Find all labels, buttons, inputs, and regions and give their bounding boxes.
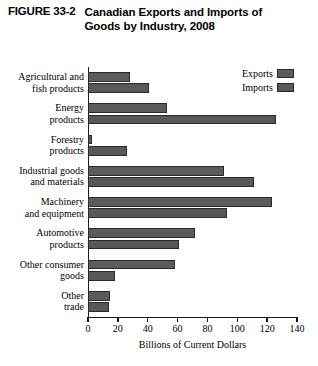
x-tick-label-120: 120: [260, 323, 275, 335]
chart-legend: ExportsImports: [232, 68, 294, 96]
bar-imports-2: [88, 146, 127, 156]
bar-exports-6: [88, 260, 175, 270]
x-axis-ticks: [88, 317, 297, 322]
category-label-2: Forestry products: [0, 134, 84, 157]
x-tick-140: [296, 317, 297, 322]
x-tick-label-80: 80: [202, 323, 212, 335]
legend-swatch-exports: [277, 69, 294, 78]
category-label-5: Automotive products: [0, 227, 84, 250]
x-tick-label-0: 0: [86, 323, 91, 335]
x-tick-80: [207, 317, 208, 322]
x-axis-title: Billions of Current Dollars: [88, 339, 297, 350]
figure-number: FIGURE 33-2: [8, 5, 84, 17]
bar-series-group: [88, 67, 297, 317]
plot-area: 020406080100120140 Billions of Current D…: [88, 67, 297, 317]
category-label-0: Agricultural and fish products: [0, 71, 84, 94]
x-tick-120: [266, 317, 267, 322]
category-label-4: Machinery and equipment: [0, 196, 84, 219]
legend-label-exports: Exports: [242, 68, 273, 79]
category-axis-labels: Agricultural and fish productsEnergy pro…: [0, 67, 84, 317]
category-label-7: Other trade: [0, 290, 84, 313]
page-title: Canadian Exports and Imports of Goods by…: [84, 5, 276, 33]
bar-exports-3: [88, 166, 224, 176]
x-tick-label-60: 60: [173, 323, 183, 335]
x-axis-tick-labels: 020406080100120140: [88, 323, 297, 337]
x-tick-label-100: 100: [230, 323, 245, 335]
bar-imports-4: [88, 208, 227, 218]
bar-imports-0: [88, 83, 149, 93]
bar-exports-7: [88, 291, 110, 301]
legend-item-imports: Imports: [232, 82, 294, 93]
legend-label-imports: Imports: [242, 82, 273, 93]
legend-item-exports: Exports: [232, 68, 294, 79]
figure-container: FIGURE 33-2 Canadian Exports and Imports…: [0, 0, 318, 366]
category-label-1: Energy products: [0, 102, 84, 125]
bar-imports-5: [88, 240, 179, 250]
bar-exports-1: [88, 103, 167, 113]
x-tick-100: [237, 317, 238, 322]
legend-swatch-imports: [277, 83, 294, 92]
x-tick-60: [177, 317, 178, 322]
bar-imports-6: [88, 271, 115, 281]
figure-title-block: FIGURE 33-2 Canadian Exports and Imports…: [8, 5, 308, 33]
category-label-6: Other consumer goods: [0, 259, 84, 282]
x-tick-40: [147, 317, 148, 322]
bar-imports-1: [88, 115, 276, 125]
category-label-3: Industrial goods and materials: [0, 165, 84, 188]
x-tick-label-20: 20: [113, 323, 123, 335]
bar-exports-4: [88, 197, 272, 207]
x-tick-20: [117, 317, 118, 322]
bar-exports-5: [88, 228, 195, 238]
x-tick-0: [87, 317, 88, 322]
bar-exports-2: [88, 135, 92, 145]
x-tick-label-140: 140: [290, 323, 305, 335]
bar-imports-3: [88, 177, 254, 187]
bar-imports-7: [88, 302, 109, 312]
bar-exports-0: [88, 72, 130, 82]
x-tick-label-40: 40: [143, 323, 153, 335]
